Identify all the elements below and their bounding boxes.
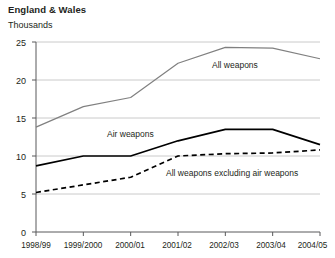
axis-ticks: [32, 42, 320, 236]
axis-lines: [36, 42, 320, 232]
chart-plot-area: [0, 0, 335, 258]
series-line-0: [36, 47, 320, 127]
data-series-group: [36, 47, 320, 192]
series-line-1: [36, 129, 320, 165]
chart-container: England & Wales Thousands 25 20 15 10 5 …: [0, 0, 335, 258]
gridlines: [36, 42, 320, 194]
